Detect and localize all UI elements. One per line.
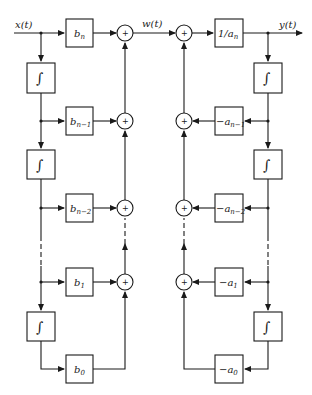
summer-left-3: + bbox=[117, 200, 133, 216]
gain-block-b1: b1 bbox=[66, 268, 93, 296]
integrator-left-1: ∫ bbox=[27, 63, 55, 93]
input-signal: x(t) bbox=[14, 19, 64, 35]
gain-block-an-2: −an−2 bbox=[215, 194, 246, 222]
summer-right-2: + bbox=[176, 113, 192, 129]
integrator-right-3: ∫ bbox=[254, 312, 282, 341]
svg-text:+: + bbox=[122, 29, 129, 38]
gain-block-bn-2: bn−2 bbox=[66, 194, 93, 222]
gain-block-bn: bn bbox=[66, 19, 93, 47]
gain-block-a1: −a1 bbox=[215, 268, 243, 296]
svg-text:+: + bbox=[181, 204, 188, 213]
gain-block-a0: −a0 bbox=[215, 355, 243, 383]
svg-text:+: + bbox=[181, 117, 188, 126]
svg-text:∫: ∫ bbox=[263, 319, 270, 335]
intermediate-label: w(t) bbox=[142, 18, 162, 29]
svg-text:∫: ∫ bbox=[263, 70, 270, 86]
gain-block-inv-an: 1/an bbox=[215, 19, 243, 47]
svg-text:+: + bbox=[122, 204, 129, 213]
summer-top-right: + bbox=[176, 25, 192, 41]
svg-text:∫: ∫ bbox=[263, 157, 270, 173]
gain-block-an-1: −an−1 bbox=[215, 107, 245, 135]
output-label: y(t) bbox=[278, 19, 297, 30]
integrator-right-2: ∫ bbox=[254, 150, 282, 179]
svg-text:+: + bbox=[122, 117, 129, 126]
gain-block-bn-1: bn−1 bbox=[66, 107, 93, 135]
integrator-right-1: ∫ bbox=[254, 63, 282, 93]
svg-text:+: + bbox=[181, 278, 188, 287]
summer-left-4: + bbox=[117, 274, 133, 290]
summer-right-4: + bbox=[176, 274, 192, 290]
svg-text:∫: ∫ bbox=[36, 70, 43, 86]
block-diagram: x(t) bn + w(t) ∫ bn−1 + ∫ bbox=[0, 0, 312, 395]
svg-text:+: + bbox=[122, 278, 129, 287]
summer-right-3: + bbox=[176, 200, 192, 216]
input-label: x(t) bbox=[15, 19, 33, 30]
svg-text:∫: ∫ bbox=[36, 319, 43, 335]
summer-left-2: + bbox=[117, 113, 133, 129]
integrator-left-2: ∫ bbox=[27, 150, 55, 179]
summer-top-left: + bbox=[117, 25, 133, 41]
integrator-left-3: ∫ bbox=[27, 312, 55, 341]
gain-block-b0: b0 bbox=[66, 355, 93, 383]
svg-text:+: + bbox=[181, 29, 188, 38]
svg-text:∫: ∫ bbox=[36, 157, 43, 173]
